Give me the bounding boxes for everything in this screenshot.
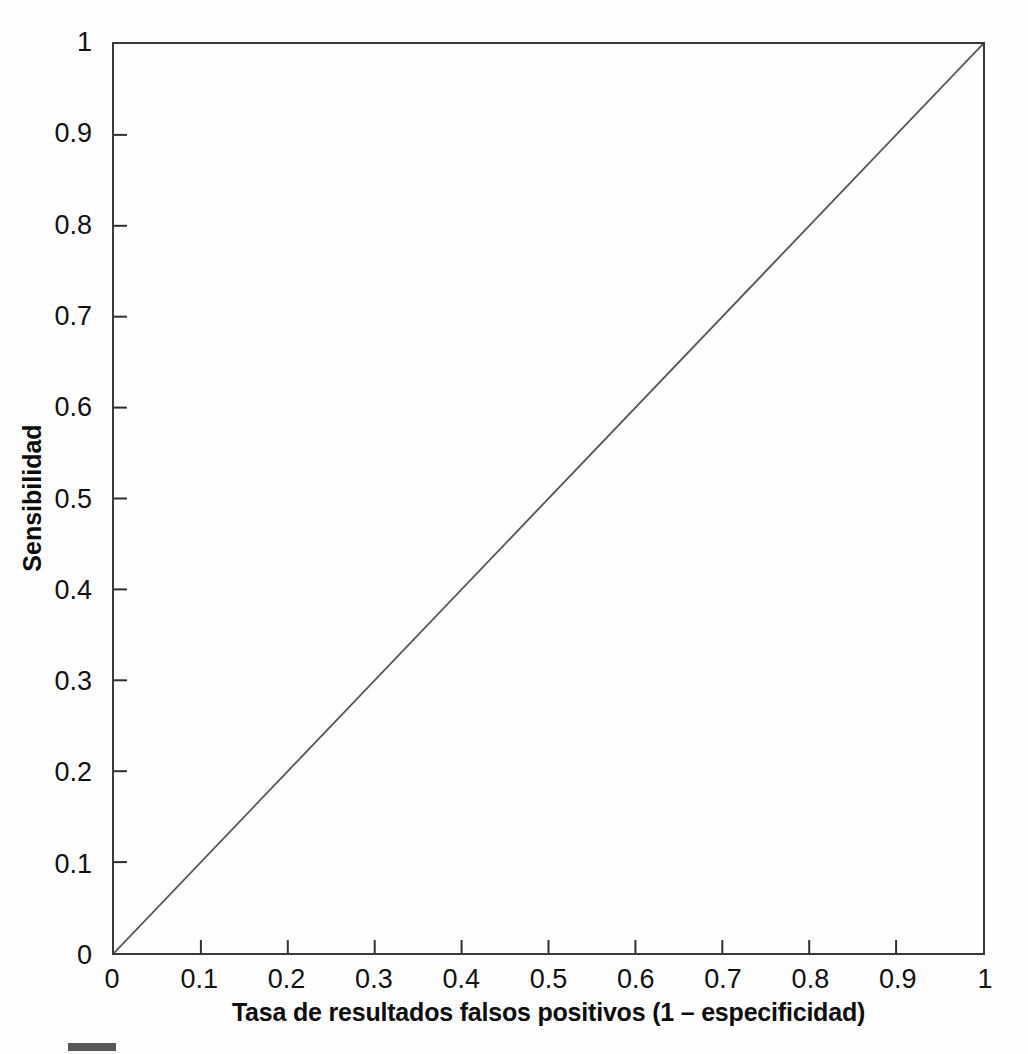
y-tick-label-3: 0.3 — [24, 668, 92, 695]
x-tick-label-0: 0 — [104, 966, 119, 993]
y-tick-label-5: 0.5 — [24, 485, 92, 512]
x-tick-label-4: 0.4 — [442, 966, 480, 993]
roc-chart-figure: Sensibilidad 0 0.1 0.2 0.3 0.4 0.5 0.6 0… — [0, 0, 1028, 1054]
x-axis-title: Tasa de resultados falsos positivos (1 –… — [112, 998, 985, 1027]
y-tick-label-2: 0.2 — [24, 759, 92, 786]
x-tick-label-3: 0.3 — [355, 966, 393, 993]
y-axis-ticks — [114, 135, 127, 862]
x-tick-label-9: 0.9 — [879, 966, 917, 993]
x-tick-label-5: 0.5 — [530, 966, 568, 993]
x-tick-label-2: 0.2 — [268, 966, 306, 993]
x-tick-label-8: 0.8 — [792, 966, 830, 993]
x-tick-label-10: 1 — [977, 966, 992, 993]
x-tick-label-6: 0.6 — [617, 966, 655, 993]
y-tick-label-10: 1 — [44, 29, 92, 56]
y-tick-label-1: 0.1 — [24, 850, 92, 877]
plot-area — [112, 42, 985, 955]
legend-swatch — [68, 1043, 116, 1051]
x-tick-label-7: 0.7 — [704, 966, 742, 993]
y-tick-label-6: 0.6 — [24, 394, 92, 421]
x-axis-ticks — [201, 940, 896, 953]
y-tick-label-9: 0.9 — [24, 120, 92, 147]
y-tick-label-8: 0.8 — [24, 211, 92, 238]
reference-diagonal-line — [114, 44, 983, 953]
x-tick-label-1: 0.1 — [181, 966, 219, 993]
y-tick-label-4: 0.4 — [24, 576, 92, 603]
y-tick-label-7: 0.7 — [24, 302, 92, 329]
plot-canvas — [114, 44, 983, 953]
y-tick-label-0: 0 — [44, 942, 92, 969]
